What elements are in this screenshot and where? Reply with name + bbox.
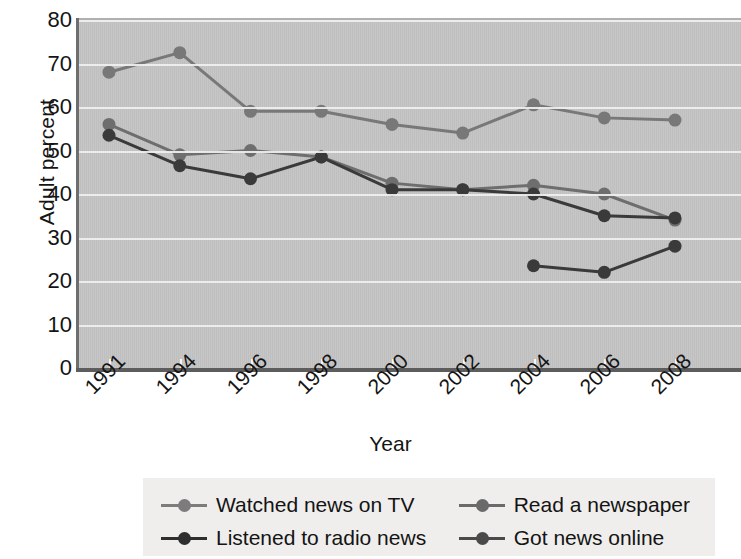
series-line — [109, 124, 675, 220]
plot-area — [79, 20, 741, 368]
y-tick-label: 0 — [28, 357, 72, 379]
y-tick-label: 50 — [28, 140, 72, 162]
legend-item[interactable]: Watched news on TV — [161, 488, 459, 521]
data-point-marker — [527, 98, 540, 111]
y-tick-label: 30 — [28, 227, 72, 249]
y-tick-label: 10 — [28, 314, 72, 336]
series-line — [109, 135, 675, 218]
line-chart-figure: Adult percent 01020304050607080 19911994… — [0, 0, 741, 559]
legend-item[interactable]: Got news online — [459, 521, 715, 554]
y-tick-label: 70 — [28, 53, 72, 75]
data-point-marker — [103, 129, 116, 142]
legend-item[interactable]: Read a newspaper — [459, 488, 715, 521]
legend-dot — [178, 532, 191, 545]
gridline — [79, 194, 741, 196]
legend-marker-icon — [161, 497, 207, 513]
legend-dot — [476, 499, 489, 512]
gridline — [79, 238, 741, 240]
gridline — [79, 107, 741, 109]
gridline — [79, 20, 741, 22]
legend-dot — [476, 532, 489, 545]
y-tick-label: 80 — [28, 9, 72, 31]
x-axis-title: Year — [0, 432, 741, 456]
data-point-marker — [173, 46, 186, 59]
legend-row: Watched news on TVRead a newspaper — [161, 488, 715, 521]
gridline — [79, 281, 741, 283]
chart-legend: Watched news on TVRead a newspaperListen… — [143, 478, 715, 556]
legend-marker-icon — [459, 530, 505, 546]
gridline — [79, 325, 741, 327]
data-point-marker — [669, 240, 682, 253]
y-tick-label: 20 — [28, 270, 72, 292]
legend-label: Read a newspaper — [514, 493, 690, 517]
data-point-marker — [527, 259, 540, 272]
data-point-marker — [173, 159, 186, 172]
legend-label: Got news online — [514, 526, 665, 550]
legend-label: Watched news on TV — [216, 493, 414, 517]
legend-row: Listened to radio newsGot news online — [161, 521, 715, 554]
gridline — [79, 64, 741, 66]
legend-marker-icon — [459, 497, 505, 513]
legend-label: Listened to radio news — [216, 526, 426, 550]
data-point-marker — [456, 127, 469, 140]
x-axis-title-text: Year — [329, 432, 411, 455]
data-point-marker — [598, 209, 611, 222]
legend-item[interactable]: Listened to radio news — [161, 521, 459, 554]
y-tick-label: 60 — [28, 96, 72, 118]
y-axis-tick-labels: 01020304050607080 — [20, 0, 72, 380]
data-point-marker — [598, 111, 611, 124]
legend-marker-icon — [161, 530, 207, 546]
data-point-marker — [244, 172, 257, 185]
gridline — [79, 151, 741, 153]
data-point-marker — [103, 66, 116, 79]
data-point-marker — [386, 118, 399, 131]
data-point-marker — [669, 211, 682, 224]
data-point-marker — [598, 266, 611, 279]
legend-dot — [178, 499, 191, 512]
y-tick-label: 40 — [28, 183, 72, 205]
data-point-marker — [669, 114, 682, 127]
